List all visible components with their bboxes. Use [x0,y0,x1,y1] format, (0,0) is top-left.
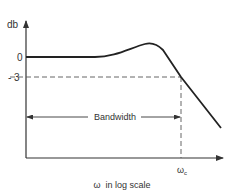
bandwidth-label: Bandwidth [94,112,136,122]
y-axis-label: db [7,19,19,30]
cutoff-frequency-label: ωc [177,165,187,176]
tick-label-minus3db: - 3 [8,72,20,83]
omega-symbol: ω [177,165,184,175]
x-axis-label: ω in log scale [93,180,150,190]
tick-label-0db: 0 [17,52,23,63]
bandwidth-diagram: db 0 - 3 Bandwidth ωc ω in log scale [0,0,238,196]
omega-subscript: c [184,170,187,176]
